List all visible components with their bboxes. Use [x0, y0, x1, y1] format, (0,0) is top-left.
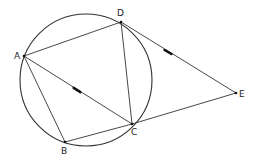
segment-bc: [65, 124, 132, 142]
geometry-figure: ABCDE: [0, 0, 259, 158]
label-b: B: [61, 146, 67, 156]
segment-dc: [121, 22, 132, 124]
point-c: [131, 123, 134, 126]
label-e: E: [239, 89, 245, 99]
label-d: D: [117, 8, 124, 18]
point-b: [64, 141, 67, 144]
parallel-marks: [74, 50, 172, 92]
segment-ce: [132, 93, 236, 124]
segments: [24, 22, 236, 142]
point-e: [235, 92, 238, 95]
segment-ad: [24, 22, 121, 56]
segment-de: [121, 22, 236, 93]
label-c: C: [131, 127, 137, 137]
point-d: [120, 21, 123, 24]
parallel-arrow-icon: [74, 88, 81, 92]
point-a: [23, 55, 26, 58]
label-a: A: [14, 51, 21, 61]
